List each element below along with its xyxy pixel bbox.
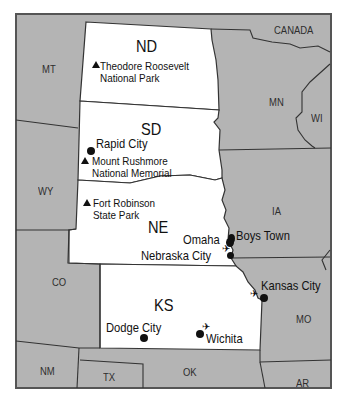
label-ar: AR (296, 378, 309, 389)
city-dot-icon (87, 147, 95, 155)
city-dodge-city: Dodge City (106, 321, 161, 334)
label-mt: MT (42, 64, 56, 75)
label-wy: WY (38, 186, 53, 197)
label-tx: TX (103, 372, 115, 383)
label-ne: NE (148, 219, 168, 236)
city-omaha: Omaha (183, 233, 220, 246)
label-co: CO (52, 277, 66, 288)
city-dot-icon (227, 252, 234, 259)
park-theodore-roosevelt: Theodore Roosevelt National Park (100, 60, 189, 84)
label-ia: IA (272, 206, 281, 217)
label-canada: CANADA (274, 25, 313, 36)
city-nebraska-city: Nebraska City (141, 249, 211, 262)
city-dot-icon (260, 294, 268, 302)
park-fort-robinson: Fort Robinson State Park (93, 197, 155, 221)
city-dot-icon (196, 330, 204, 338)
city-wichita: Wichita (206, 332, 243, 345)
city-boys-town: Boys Town (236, 229, 290, 242)
label-mn: MN (269, 97, 284, 108)
triangle-park-icon (83, 199, 91, 206)
triangle-park-icon (92, 61, 100, 68)
triangle-park-icon (81, 157, 89, 164)
label-wi: WI (311, 113, 323, 124)
label-nd: ND (136, 38, 157, 55)
city-rapid-city: Rapid City (96, 137, 148, 150)
label-ks: KS (154, 297, 174, 314)
label-ok: OK (183, 367, 197, 378)
city-dot-icon (140, 334, 148, 342)
city-kansas-city: Kansas City (261, 279, 321, 292)
label-mo: MO (296, 314, 311, 325)
park-mount-rushmore: Mount Rushmore National Memorial (92, 155, 172, 179)
airport-icon: ✈ (250, 289, 258, 299)
label-nm: NM (40, 366, 55, 377)
